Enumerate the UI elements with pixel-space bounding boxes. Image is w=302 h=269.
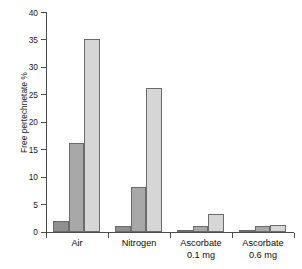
bar — [146, 88, 162, 231]
bars-layer — [46, 12, 294, 232]
plot-area: 0510152025303540 — [46, 12, 294, 233]
bar — [115, 226, 131, 232]
x-tick — [294, 233, 295, 238]
x-axis-group-label: Nitrogen — [108, 238, 170, 250]
group-label-line2: 0.1 mg — [170, 250, 232, 262]
bar — [193, 226, 209, 232]
y-axis-label: Free pertechnetate % — [20, 43, 29, 183]
bar — [69, 143, 85, 231]
x-axis-group-label: Ascorbate0.6 mg — [232, 238, 294, 261]
y-tick-label: 10 — [29, 172, 38, 182]
group-label-line1: Ascorbate — [242, 238, 283, 248]
y-tick-label: 5 — [33, 200, 38, 210]
y-tick-label: 0 — [33, 227, 38, 237]
group-label-line1: Air — [71, 238, 82, 248]
bar-chart-figure: Free pertechnetate % 0510152025303540 Ai… — [0, 0, 302, 269]
y-tick-label: 25 — [29, 90, 38, 100]
bar — [208, 214, 224, 232]
group-label-line2: 0.6 mg — [232, 250, 294, 262]
y-tick-label: 40 — [29, 8, 38, 18]
y-tick-label: 20 — [29, 117, 38, 127]
bar — [270, 225, 286, 232]
x-axis-group-label: Ascorbate0.1 mg — [170, 238, 232, 261]
bar — [131, 187, 147, 232]
bar — [255, 226, 271, 231]
bar — [177, 230, 193, 232]
group-label-line1: Nitrogen — [122, 238, 157, 248]
y-tick-label: 35 — [29, 35, 38, 45]
bar — [53, 221, 69, 232]
bar — [84, 39, 100, 231]
bar — [239, 230, 255, 232]
y-tick-label: 15 — [29, 145, 38, 155]
x-axis-group-label: Air — [46, 238, 108, 250]
group-label-line1: Ascorbate — [180, 238, 221, 248]
y-tick-label: 30 — [29, 62, 38, 72]
